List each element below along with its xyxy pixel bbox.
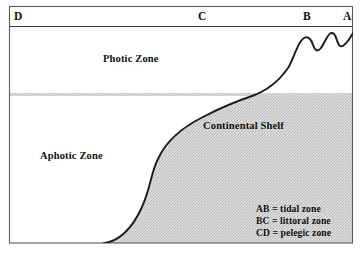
continental-shelf-label: Continental Shelf	[203, 121, 284, 132]
point-label-c: C	[198, 11, 207, 23]
point-label-d: D	[14, 11, 23, 23]
ocean-zones-diagram: D C B A Photic Zone Aphotic Zone Contine…	[0, 0, 363, 259]
photic-zone-label: Photic Zone	[103, 54, 159, 65]
legend-item-bc: BC = littoral zone	[256, 216, 331, 226]
legend-item-cd: CD = pelegic zone	[256, 228, 331, 238]
point-label-b: B	[303, 11, 311, 23]
point-label-a: A	[343, 11, 352, 23]
aphotic-zone-label: Aphotic Zone	[40, 151, 103, 162]
legend-item-ab: AB = tidal zone	[256, 204, 321, 214]
